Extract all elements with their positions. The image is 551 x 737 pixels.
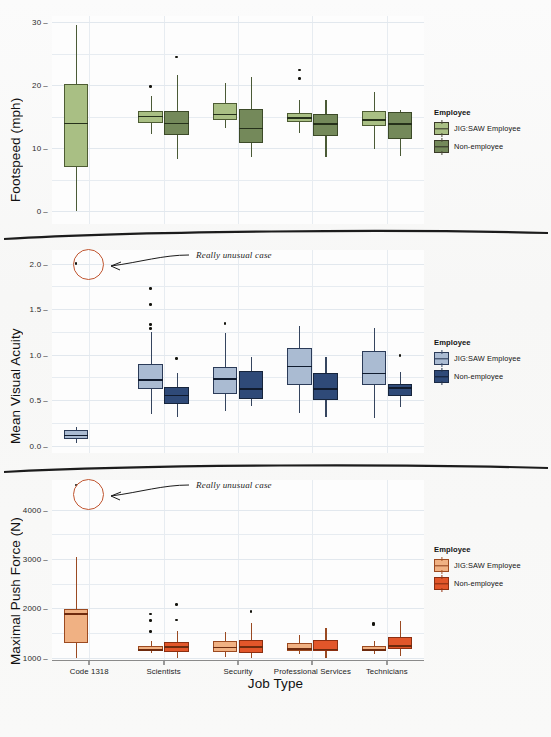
boxplot-median-line (138, 116, 163, 118)
gridline-horizontal-minor (52, 584, 424, 585)
y-axis-tick-label: 20– (22, 81, 48, 90)
boxplot-whisker-upper (374, 92, 375, 111)
boxplot-median-line (138, 649, 163, 651)
gridline-horizontal (52, 22, 424, 23)
boxplot-median-line (164, 646, 189, 648)
gridline-horizontal (52, 608, 424, 609)
legend-swatch-nonemployee (434, 577, 449, 590)
gridline-horizontal (52, 211, 424, 212)
y-axis-tick-label: 30– (22, 18, 48, 27)
legend-label-jigsaw: JIG:SAW Employee (454, 354, 521, 363)
boxplot-median-line (164, 395, 189, 397)
boxplot-box[interactable] (64, 84, 89, 167)
boxplot-whisker-upper (76, 557, 77, 609)
gridline-horizontal-minor (52, 534, 424, 535)
boxplot-box[interactable] (388, 637, 413, 649)
boxplot-median-line (362, 373, 387, 375)
boxplot-box[interactable] (213, 367, 238, 394)
legend-item-jigsaw[interactable]: JIG:SAW Employee (434, 352, 521, 365)
x-axis-tick-label: Code 1318 (70, 667, 109, 676)
legend-swatch-jigsaw (434, 559, 449, 572)
boxplot-whisker-lower (225, 120, 226, 128)
boxplot-median-line (64, 613, 89, 615)
boxplot-median-line (388, 387, 413, 389)
boxplot-whisker-lower (151, 123, 152, 134)
panel-footspeed: Footspeed (mph) Employee JIG:SAW Employe… (0, 0, 551, 238)
boxplot-outlier-point (372, 623, 375, 626)
legend-push-force: Employee JIG:SAW Employee Non-employee (434, 545, 521, 595)
annotation-circle-visual-acuity (73, 249, 104, 280)
boxplot-whisker-lower (299, 122, 300, 133)
boxplot-whisker-upper (299, 635, 300, 643)
boxplot-whisker-lower (325, 400, 326, 417)
legend-swatch-jigsaw (434, 352, 449, 365)
annotation-arrow-visual-acuity (101, 252, 191, 280)
boxplot-median-line (138, 379, 163, 381)
x-axis-tick-mark (163, 661, 164, 665)
boxplot-box[interactable] (213, 103, 238, 120)
boxplot-outlier-point (149, 323, 152, 326)
x-axis-tick-label: Technicians (366, 667, 408, 676)
legend-item-nonemployee[interactable]: Non-employee (434, 370, 521, 383)
boxplot-box[interactable] (239, 109, 264, 143)
boxplot-box[interactable] (138, 364, 163, 389)
gridline-horizontal-minor (52, 286, 424, 287)
boxplot-whisker-lower (325, 136, 326, 157)
legend-item-jigsaw[interactable]: JIG:SAW Employee (434, 559, 521, 572)
boxplot-whisker-lower (325, 651, 326, 658)
y-axis-tick-label: 2.0– (22, 259, 48, 268)
legend-title: Employee (434, 108, 521, 117)
boxplot-box[interactable] (362, 351, 387, 385)
boxplot-box[interactable] (239, 371, 264, 399)
boxplot-whisker-upper (325, 100, 326, 114)
boxplot-median-line (313, 649, 338, 651)
boxplot-median-line (239, 128, 264, 130)
x-axis-tick-mark (312, 661, 313, 665)
x-axis-tick-label: Scientists (146, 667, 180, 676)
boxplot-median-line (362, 649, 387, 651)
legend-title: Employee (434, 545, 521, 554)
y-axis-tick-label: 4000– (22, 505, 48, 514)
boxplot-whisker-upper (400, 621, 401, 637)
boxplot-median-line (213, 114, 238, 116)
boxplot-box[interactable] (388, 384, 413, 396)
plot-area-footspeed (52, 16, 424, 224)
boxplot-median-line (239, 646, 264, 648)
y-axis-label-visual-acuity: Mean Visual Acuity (8, 284, 23, 444)
boxplot-box[interactable] (313, 114, 338, 136)
boxplot-box[interactable] (313, 373, 338, 400)
y-axis-label-footspeed: Footspeed (mph) (8, 52, 23, 202)
boxplot-whisker-upper (251, 77, 252, 109)
boxplot-median-line (362, 119, 387, 121)
boxplot-whisker-upper (177, 75, 178, 111)
boxplot-median-line (64, 435, 89, 437)
gridline-horizontal-minor (52, 423, 424, 424)
boxplot-whisker-lower (400, 139, 401, 156)
boxplot-outlier-point (399, 354, 402, 357)
boxplot-median-line (287, 648, 312, 650)
y-axis-tick-label: 1.5– (22, 305, 48, 314)
boxplot-outlier-point (175, 357, 178, 360)
boxplot-whisker-lower (177, 652, 178, 658)
legend-item-jigsaw[interactable]: JIG:SAW Employee (434, 122, 521, 135)
legend-footspeed: Employee JIG:SAW Employee Non-employee (434, 108, 521, 158)
boxplot-whisker-lower (225, 652, 226, 657)
boxplot-whisker-lower (251, 143, 252, 157)
boxplot-box[interactable] (388, 112, 413, 138)
y-axis-tick-label: 0.5– (22, 396, 48, 405)
boxplot-median-line (287, 117, 312, 119)
y-axis-tick-label: 1000– (22, 653, 48, 662)
plot-area-visual-acuity (52, 250, 424, 453)
boxplot-median-line (388, 645, 413, 647)
y-axis-tick-label: 0– (22, 207, 48, 216)
legend-swatch-nonemployee (434, 140, 449, 153)
boxplot-whisker-lower (177, 404, 178, 417)
legend-item-nonemployee[interactable]: Non-employee (434, 140, 521, 153)
legend-label-nonemployee: Non-employee (454, 142, 503, 151)
legend-item-nonemployee[interactable]: Non-employee (434, 577, 521, 590)
y-axis-label-push-force: Maximal Push Force (N) (8, 490, 23, 665)
boxplot-outlier-point (149, 287, 152, 290)
boxplot-whisker-lower (76, 643, 77, 657)
x-axis-tick-label: Security (224, 667, 253, 676)
gridline-horizontal (52, 85, 424, 86)
